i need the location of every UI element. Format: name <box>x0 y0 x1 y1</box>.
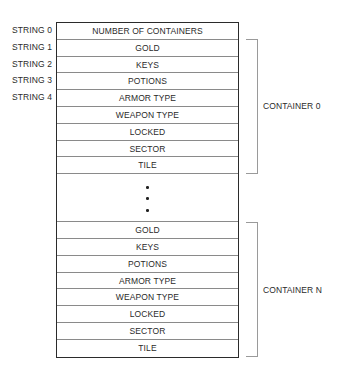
container-n-field: WEAPON TYPE <box>57 289 238 306</box>
container-n-field: TILE <box>57 340 238 357</box>
memory-layout-table: NUMBER OF CONTAINERS GOLD KEYS POTIONS A… <box>56 22 239 358</box>
container-0-field: ARMOR TYPE <box>57 90 238 107</box>
container-0-field: SECTOR <box>57 141 238 158</box>
vertical-ellipsis-icon <box>57 174 238 222</box>
container-n-field: GOLD <box>57 222 238 239</box>
container-n-field: ARMOR TYPE <box>57 273 238 290</box>
container-n-bracket <box>246 222 258 357</box>
string-labels: STRING 0 STRING 1 STRING 2 STRING 3 STRI… <box>0 22 52 106</box>
dot <box>146 197 149 200</box>
header-row: NUMBER OF CONTAINERS <box>57 23 238 40</box>
container-n-field: KEYS <box>57 239 238 256</box>
container-n-field: POTIONS <box>57 256 238 273</box>
string-label: STRING 0 <box>0 22 52 39</box>
string-label: STRING 2 <box>0 56 52 73</box>
container-0-field: WEAPON TYPE <box>57 107 238 124</box>
container-n-label: CONTAINER N <box>263 285 322 295</box>
string-label: STRING 3 <box>0 72 52 89</box>
container-0-field: KEYS <box>57 57 238 74</box>
container-0-bracket <box>246 39 258 174</box>
container-0-field: POTIONS <box>57 73 238 90</box>
dot <box>146 209 149 212</box>
container-n-field: LOCKED <box>57 306 238 323</box>
container-0-label: CONTAINER 0 <box>263 101 321 111</box>
container-n-field: SECTOR <box>57 323 238 340</box>
container-0-field: TILE <box>57 157 238 174</box>
container-0-field: GOLD <box>57 40 238 57</box>
dot <box>146 186 149 189</box>
string-label: STRING 4 <box>0 89 52 106</box>
string-label: STRING 1 <box>0 39 52 56</box>
container-0-field: LOCKED <box>57 124 238 141</box>
